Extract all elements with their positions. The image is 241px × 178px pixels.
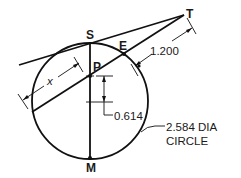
dim-x-label: x <box>46 75 54 87</box>
dia-leader <box>141 126 165 132</box>
dim-1200-label: 1.200 <box>150 45 179 57</box>
arrow-x-right <box>73 63 79 68</box>
dia-label-line1: 2.584 DIA <box>166 121 217 133</box>
label-p: P <box>93 60 101 74</box>
label-s: S <box>86 28 94 42</box>
point-m <box>88 156 92 160</box>
dim-614-label: 0.614 <box>114 110 143 122</box>
arrow-x-left <box>23 95 29 100</box>
label-e: E <box>119 39 127 53</box>
arrow-614-bottom <box>102 96 106 102</box>
dia-label-line2: CIRCLE <box>166 135 209 147</box>
dim-614-leader <box>104 102 113 115</box>
arrow-614-top <box>102 76 106 82</box>
arrow-1200-t <box>186 28 192 33</box>
label-t: T <box>186 7 194 21</box>
tangent-line <box>19 15 184 65</box>
label-m: M <box>86 161 96 175</box>
geometry-diagram: 1.200 x 0.614 2.584 DIA CIRCLE S E T P M <box>0 0 241 178</box>
secant-line <box>32 15 184 112</box>
